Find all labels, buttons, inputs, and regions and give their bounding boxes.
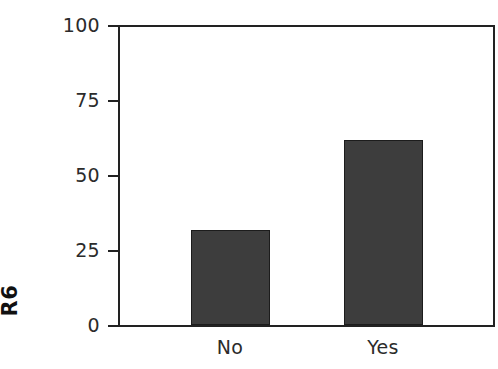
y-tick-label-100: 100	[40, 16, 100, 35]
y-tick-label-75: 75	[40, 91, 100, 110]
y-tick-label-25: 25	[40, 241, 100, 260]
x-tick-label-yes: Yes	[323, 338, 443, 357]
x-tick-label-no: No	[170, 338, 290, 357]
y-tick-label-50: 50	[40, 166, 100, 185]
plot-area	[118, 25, 495, 327]
y-axis-tick-labels: 100 75 50 25 0	[38, 0, 100, 369]
bar-no[interactable]	[191, 230, 270, 325]
y-axis-title: R6	[0, 277, 21, 325]
y-tick-label-0: 0	[40, 316, 100, 335]
bar-yes[interactable]	[344, 140, 423, 325]
bar-chart-figure: R6 100 75 50 25 0 No Yes	[0, 0, 498, 369]
